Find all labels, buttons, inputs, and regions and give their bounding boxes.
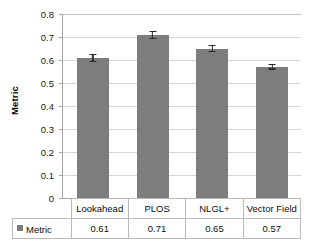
error-bar	[269, 64, 276, 70]
bar-group	[242, 14, 302, 198]
bar-group	[123, 14, 183, 198]
error-bar-cap-bottom	[149, 38, 156, 39]
bar-group	[183, 14, 243, 198]
y-axis-tick-label: 0.6	[41, 55, 54, 66]
y-axis-tick-label: 0.8	[41, 9, 54, 20]
bar	[196, 49, 228, 199]
legend-label-text: Metric	[26, 223, 52, 234]
table-value-cell: 0.65	[186, 219, 243, 239]
bar-group	[63, 14, 123, 198]
error-bar-cap-top	[209, 45, 216, 46]
table-row-headers: Lookahead PLOS NLGL+ Vector Field	[13, 199, 301, 219]
error-bar-cap-bottom	[209, 51, 216, 52]
error-bar	[149, 31, 156, 39]
bar-series	[63, 14, 301, 198]
table-header-cell: Vector Field	[243, 199, 300, 219]
error-bar-cap-bottom	[269, 68, 276, 69]
table-header-cell: Lookahead	[71, 199, 128, 219]
table-header-cell: NLGL+	[186, 199, 243, 219]
y-axis-tick-label: 0.4	[41, 101, 54, 112]
table-row-values: Metric 0.61 0.71 0.65 0.57	[13, 219, 301, 239]
table-header-cell: PLOS	[128, 199, 185, 219]
legend-swatch-icon	[17, 225, 23, 231]
error-bar-cap-top	[149, 31, 156, 32]
table-corner-cell	[13, 199, 72, 219]
y-axis-tick-label: 0.5	[41, 78, 54, 89]
y-axis-tick-label: 0.1	[41, 170, 54, 181]
error-bar-cap-bottom	[89, 61, 96, 62]
error-bar	[209, 45, 216, 52]
y-axis-tick-labels: 00.10.20.30.40.50.60.70.8	[24, 14, 58, 198]
data-table: Lookahead PLOS NLGL+ Vector Field Metric…	[12, 198, 301, 238]
bar	[77, 58, 109, 198]
bar	[137, 35, 169, 198]
y-axis-tick-label: 0.2	[41, 147, 54, 158]
table-value-cell: 0.71	[128, 219, 185, 239]
legend-entry-metric: Metric	[13, 219, 72, 239]
error-bar-cap-top	[269, 64, 276, 65]
y-axis-title: Metric	[4, 0, 26, 200]
y-axis-tick-label: 0.7	[41, 32, 54, 43]
y-axis-title-text: Metric	[10, 85, 21, 114]
table-value-cell: 0.61	[71, 219, 128, 239]
bar	[256, 67, 288, 198]
error-bar	[89, 54, 96, 62]
plot-area	[62, 14, 301, 198]
error-bar-cap-top	[89, 54, 96, 55]
y-axis-tick-label: 0.3	[41, 124, 54, 135]
table-value-cell: 0.57	[243, 219, 300, 239]
bar-chart-figure: Metric 00.10.20.30.40.50.60.70.8 Lookahe…	[0, 0, 322, 242]
